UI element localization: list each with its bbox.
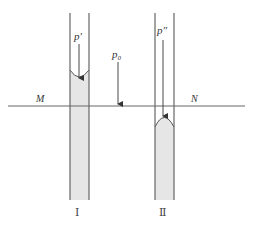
tube1-liquid (70, 70, 89, 200)
tube2-label: Ⅱ (159, 206, 166, 218)
M-label: M (35, 93, 45, 104)
N-label: N (190, 93, 199, 104)
capillary-diagram: p′ p₀ p″ M N Ⅰ Ⅱ (0, 0, 255, 225)
p-double-prime-label: p″ (156, 24, 168, 36)
p-zero-label: p₀ (111, 48, 122, 60)
p-prime-label: p′ (73, 30, 83, 42)
tube1-label: Ⅰ (75, 206, 79, 218)
tube2-liquid (155, 118, 174, 201)
